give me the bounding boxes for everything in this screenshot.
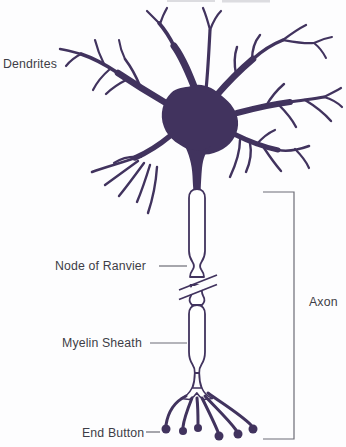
dendrite-rightdown-mid xyxy=(278,146,309,151)
axon-tube-right xyxy=(199,373,202,389)
dendrite-up2-tip-left xyxy=(203,8,210,30)
dendrite-rightdown-twig3 xyxy=(230,140,240,177)
myelin-capsule-1 xyxy=(189,189,205,277)
dendrite-up-mid xyxy=(159,23,174,46)
dendrite-up-tip-left xyxy=(147,11,159,23)
dendrite-leftdown-trunk xyxy=(135,136,170,158)
dendrite-upright-tip2b xyxy=(314,43,326,58)
dendrite-leftup-uptwig1a xyxy=(119,40,125,59)
myelin-sheath-label: Myelin Sheath xyxy=(62,336,142,350)
dendrite-upright-mid xyxy=(253,40,283,59)
dendrite-up-tip-right xyxy=(160,8,167,24)
dendrite-rightdown-uptwig xyxy=(256,130,275,145)
dendrite-rightdown-twig1 xyxy=(246,143,251,172)
dendrite-leftdown-fan5 xyxy=(148,167,157,213)
soma xyxy=(162,85,238,155)
axon-tube-left xyxy=(192,373,195,389)
dendrite-leftup-downtwig2 xyxy=(93,69,110,90)
dendrite-up2-trunk xyxy=(206,30,210,90)
dendrite-leftdown-fan2 xyxy=(105,161,138,185)
dendrite-right-downtwig2 xyxy=(305,100,331,121)
top-cropped-remnant xyxy=(167,0,270,3)
dendrite-upright-tip1 xyxy=(283,25,306,40)
dendrite-leftup-trunk xyxy=(118,73,166,103)
dendrite-leftup-tip2 xyxy=(66,54,81,66)
dendrite-up2-tip-right xyxy=(210,11,221,30)
terminal-branches xyxy=(166,393,251,432)
dendrite-upright-tip2 xyxy=(283,40,314,43)
dendrites-label: Dendrites xyxy=(3,57,57,71)
dendrite-leftup-tip1 xyxy=(60,49,81,54)
dendrite-right-tip-down xyxy=(324,97,342,107)
axon-bracket xyxy=(263,192,294,439)
dendrite-rightdown-twig4 xyxy=(295,149,309,168)
axon-hillock xyxy=(184,144,211,189)
end-button-label: End Button xyxy=(82,426,144,440)
terminal-branch-2 xyxy=(183,398,192,427)
myelin-capsule-2 xyxy=(189,305,205,373)
dendrite-leftup-downtwig1 xyxy=(106,79,128,94)
neuron-diagram: Dendrites Node of Ranvier Myelin Sheath … xyxy=(0,0,346,447)
axon-label: Axon xyxy=(309,295,338,309)
dendrite-leftdown-fan1 xyxy=(92,158,135,172)
dendrite-upright-tip2a xyxy=(314,37,332,43)
terminal-branch-3 xyxy=(197,398,198,424)
node-of-ranvier-label: Node of Ranvier xyxy=(55,259,146,273)
dendrite-right-downtwig1 xyxy=(278,104,296,127)
dendrite-right-tip-up xyxy=(324,88,341,97)
